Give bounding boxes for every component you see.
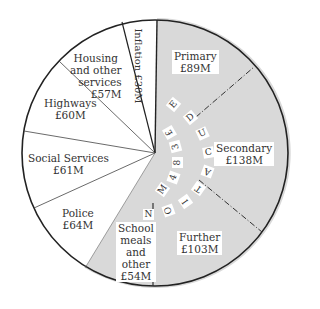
label-police: Police £64M: [62, 207, 94, 231]
label-secondary-name: Secondary: [216, 142, 272, 154]
label-highways: Highways £60M: [44, 97, 97, 121]
label-school-line3: and: [118, 246, 154, 258]
label-highways-value: £60M: [44, 109, 97, 121]
label-secondary-value: £138M: [216, 154, 272, 166]
edu-total-8: 8: [172, 157, 183, 168]
label-housing-line2: and other: [70, 64, 122, 76]
label-further: Further £103M: [177, 231, 222, 255]
label-school-line2: meals: [118, 234, 154, 246]
label-social-services: Social Services £61M: [28, 152, 109, 176]
label-housing-line3: services: [70, 76, 122, 88]
label-secondary: Secondary £138M: [214, 142, 274, 166]
label-social-value: £61M: [28, 164, 109, 176]
label-school-line4: other: [118, 258, 154, 270]
label-primary-value: £89M: [174, 62, 217, 74]
label-police-value: £64M: [62, 219, 94, 231]
label-school-meals: School meals and other £54M: [116, 222, 156, 282]
label-social-name: Social Services: [28, 152, 109, 164]
edu-letter-n: N: [143, 209, 154, 220]
label-housing: Housing and other services £57M: [70, 52, 122, 100]
label-primary: Primary £89M: [172, 50, 219, 74]
label-further-value: £103M: [179, 243, 220, 255]
label-inflation: Inflation £30M: [132, 28, 144, 103]
label-housing-line1: Housing: [70, 52, 122, 64]
label-school-value: £54M: [118, 270, 154, 282]
label-police-name: Police: [62, 207, 94, 219]
label-further-name: Further: [179, 231, 220, 243]
label-primary-name: Primary: [174, 50, 217, 62]
label-school-line1: School: [118, 222, 154, 234]
edu-letter-c: C: [202, 146, 215, 159]
label-housing-value: £57M: [70, 88, 122, 100]
